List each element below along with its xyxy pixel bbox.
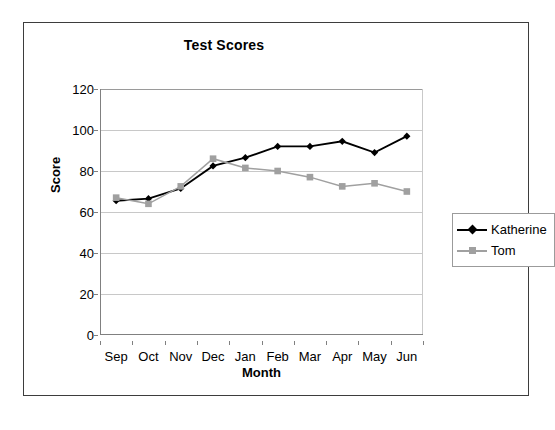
legend: KatherineTom	[452, 213, 555, 267]
data-point-marker	[306, 143, 313, 150]
x-tick-mark	[197, 341, 198, 345]
x-tick-mark	[100, 341, 101, 345]
data-point-marker	[145, 201, 152, 208]
y-tick-mark	[94, 130, 98, 131]
x-tick-label: Sep	[105, 349, 128, 364]
x-tick-mark	[229, 341, 230, 345]
x-tick-mark	[391, 341, 392, 345]
y-tick-mark	[94, 212, 98, 213]
chart-frame: Test Scores Score 020406080100120 SepOct…	[23, 22, 529, 396]
x-tick-label: Feb	[266, 349, 288, 364]
data-point-marker	[403, 133, 410, 140]
x-tick-mark	[358, 341, 359, 345]
x-tick-label: Dec	[201, 349, 224, 364]
y-tick-mark	[94, 171, 98, 172]
x-tick-label: Mar	[299, 349, 321, 364]
y-tick-mark	[94, 253, 98, 254]
x-axis-tick-labels: SepOctNovDecJanFebMarAprMayJun	[100, 341, 423, 361]
y-tick-label: 120	[50, 82, 94, 97]
x-tick-label: Apr	[332, 349, 352, 364]
x-tick-mark	[165, 341, 166, 345]
x-axis-title: Month	[100, 365, 423, 380]
x-tick-mark	[132, 341, 133, 345]
series-layer	[100, 89, 423, 335]
legend-label: Katherine	[491, 222, 547, 237]
y-axis-tick-labels: 020406080100120	[44, 89, 94, 335]
x-tick-mark	[262, 341, 263, 345]
data-point-marker	[274, 168, 281, 175]
y-tick-label: 100	[50, 123, 94, 138]
series-line	[116, 159, 407, 204]
data-point-marker	[339, 183, 346, 190]
legend-swatch-icon	[457, 245, 487, 257]
data-point-marker	[177, 183, 184, 190]
data-point-marker	[339, 138, 346, 145]
y-tick-label: 80	[50, 164, 94, 179]
data-point-marker	[242, 154, 249, 161]
legend-label: Tom	[491, 243, 516, 258]
data-point-marker	[274, 143, 281, 150]
x-tick-label: May	[362, 349, 387, 364]
data-point-marker	[371, 149, 378, 156]
data-point-marker	[113, 194, 120, 201]
data-point-marker	[404, 188, 411, 195]
y-tick-label: 20	[50, 287, 94, 302]
x-tick-label: Jan	[235, 349, 256, 364]
y-tick-label: 40	[50, 246, 94, 261]
chart-title: Test Scores	[24, 37, 424, 53]
data-point-marker	[242, 165, 249, 172]
data-point-marker	[307, 174, 314, 181]
x-tick-label: Nov	[169, 349, 192, 364]
y-tick-label: 60	[50, 205, 94, 220]
y-tick-mark	[94, 89, 98, 90]
x-tick-mark	[294, 341, 295, 345]
x-tick-mark	[423, 341, 424, 345]
series-line	[116, 136, 407, 201]
x-tick-label: Jun	[396, 349, 417, 364]
data-point-marker	[371, 180, 378, 187]
legend-item[interactable]: Katherine	[457, 219, 547, 240]
y-tick-mark	[94, 335, 98, 336]
legend-item[interactable]: Tom	[457, 240, 547, 261]
legend-swatch-icon	[457, 224, 487, 236]
data-point-marker	[210, 155, 217, 162]
x-tick-label: Oct	[138, 349, 158, 364]
y-tick-mark	[94, 294, 98, 295]
y-tick-label: 0	[50, 328, 94, 343]
x-tick-mark	[326, 341, 327, 345]
